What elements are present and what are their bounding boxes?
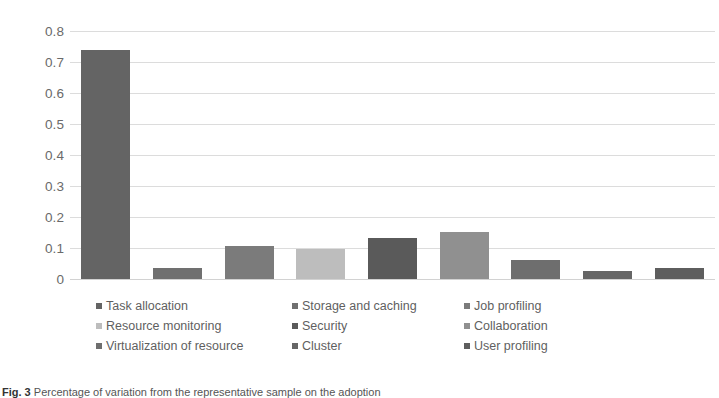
- bar-chart: 0.8 0.7 0.6 0.5 0.4 0.3 0.2 0.1 0: [0, 8, 719, 293]
- bar: [296, 249, 345, 279]
- bar: [368, 238, 417, 279]
- legend-item-collaboration[interactable]: Collaboration: [464, 320, 664, 333]
- y-axis-tick: 0.3: [18, 180, 64, 194]
- legend-label: Virtualization of resource: [106, 340, 243, 353]
- legend-item-virtualization-of-resource[interactable]: Virtualization of resource: [96, 340, 292, 353]
- bar: [225, 246, 274, 279]
- bar-series: [70, 8, 715, 293]
- figure-container: 0.8 0.7 0.6 0.5 0.4 0.3 0.2 0.1 0: [0, 0, 719, 398]
- y-axis-tick: 0.2: [18, 211, 64, 225]
- legend-item-security[interactable]: Security: [292, 320, 464, 333]
- legend-item-storage-and-caching[interactable]: Storage and caching: [292, 300, 464, 313]
- legend-item-task-allocation[interactable]: Task allocation: [96, 300, 292, 313]
- y-axis-tick: 0.6: [18, 87, 64, 101]
- legend-swatch-icon: [292, 343, 298, 349]
- bar: [655, 268, 704, 279]
- legend-swatch-icon: [464, 343, 470, 349]
- bar: [583, 271, 632, 279]
- legend-swatch-icon: [96, 323, 102, 329]
- figure-caption-text: Percentage of variation from the represe…: [34, 386, 381, 398]
- legend-label: Collaboration: [474, 320, 548, 333]
- legend-label: Job profiling: [474, 300, 541, 313]
- y-axis-tick: 0.1: [18, 242, 64, 256]
- chart-legend: Task allocation Storage and caching Job …: [96, 296, 696, 356]
- legend-swatch-icon: [464, 303, 470, 309]
- bar: [81, 50, 130, 279]
- y-axis-tick: 0.4: [18, 149, 64, 163]
- legend-swatch-icon: [292, 303, 298, 309]
- legend-item-user-profiling[interactable]: User profiling: [464, 340, 664, 353]
- legend-label: User profiling: [474, 340, 548, 353]
- y-axis-tick: 0: [18, 273, 64, 287]
- legend-row: Resource monitoring Security Collaborati…: [96, 316, 696, 336]
- legend-swatch-icon: [96, 303, 102, 309]
- bar: [511, 260, 560, 279]
- legend-swatch-icon: [96, 343, 102, 349]
- bar: [153, 268, 202, 279]
- plot-area: [70, 8, 715, 293]
- legend-swatch-icon: [292, 323, 298, 329]
- legend-row: Virtualization of resource Cluster User …: [96, 336, 696, 356]
- bar: [440, 232, 489, 279]
- legend-item-job-profiling[interactable]: Job profiling: [464, 300, 664, 313]
- figure-number: Fig. 3: [2, 386, 31, 398]
- y-axis-tick: 0.8: [18, 25, 64, 39]
- legend-item-resource-monitoring[interactable]: Resource monitoring: [96, 320, 292, 333]
- legend-label: Task allocation: [106, 300, 188, 313]
- y-axis-tick: 0.7: [18, 56, 64, 70]
- figure-caption: Fig. 3 Percentage of variation from the …: [2, 386, 717, 398]
- legend-label: Security: [302, 320, 347, 333]
- legend-item-cluster[interactable]: Cluster: [292, 340, 464, 353]
- legend-label: Resource monitoring: [106, 320, 221, 333]
- legend-label: Cluster: [302, 340, 342, 353]
- legend-row: Task allocation Storage and caching Job …: [96, 296, 696, 316]
- legend-label: Storage and caching: [302, 300, 417, 313]
- y-axis-tick: 0.5: [18, 118, 64, 132]
- legend-swatch-icon: [464, 323, 470, 329]
- y-axis: 0.8 0.7 0.6 0.5 0.4 0.3 0.2 0.1 0: [18, 8, 64, 293]
